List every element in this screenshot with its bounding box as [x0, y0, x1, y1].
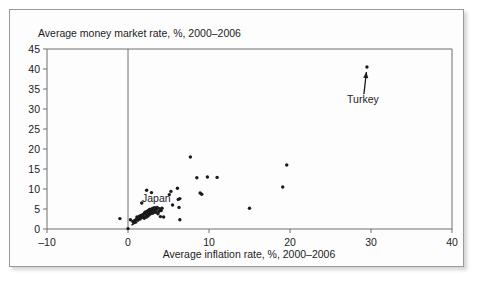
figure-frame: Average money market rate, %, 2000–2006 … [9, 9, 464, 267]
data-point [281, 185, 284, 188]
x-tick-label: 20 [284, 236, 296, 248]
data-point [365, 65, 368, 68]
x-tick-label: 10 [203, 236, 215, 248]
x-tick-label: 0 [125, 236, 131, 248]
data-point [171, 203, 174, 206]
annotation-label: Turkey [347, 93, 379, 105]
data-point [178, 197, 181, 200]
y-tick-label: 30 [28, 103, 40, 115]
x-tick-label: 40 [446, 236, 458, 248]
y-axis-ticks: 051015202530354045 [28, 43, 47, 235]
annotations-layer: TurkeyJapan [132, 72, 380, 225]
y-tick-label: 40 [28, 63, 40, 75]
y-tick-label: 25 [28, 123, 40, 135]
data-point [248, 207, 251, 210]
data-points-layer [118, 65, 368, 230]
y-tick-label: 20 [28, 143, 40, 155]
data-point [195, 176, 198, 179]
y-tick-label: 10 [28, 183, 40, 195]
y-tick-label: 45 [28, 43, 40, 55]
y-tick-label: 0 [34, 223, 40, 235]
data-point [215, 176, 218, 179]
data-point [176, 187, 179, 190]
data-point [285, 163, 288, 166]
data-point [189, 155, 192, 158]
data-point [159, 215, 162, 218]
x-tick-label: 30 [365, 236, 377, 248]
data-point [178, 218, 181, 221]
data-point [160, 207, 163, 210]
x-axis-ticks: –10010203040 [38, 229, 458, 248]
annotation-label: Japan [142, 192, 171, 204]
y-tick-label: 5 [34, 203, 40, 215]
y-axis-title: Average money market rate, %, 2000–2006 [38, 27, 241, 39]
data-point [200, 193, 203, 196]
scatter-plot: Average money market rate, %, 2000–2006 … [10, 10, 465, 268]
y-tick-label: 35 [28, 83, 40, 95]
x-tick-label: –10 [38, 236, 56, 248]
data-point [206, 175, 209, 178]
data-point [162, 215, 165, 218]
data-point [126, 227, 129, 230]
y-tick-label: 15 [28, 163, 40, 175]
data-point [118, 217, 121, 220]
data-point [177, 206, 180, 209]
x-axis-title: Average inflation rate, %, 2000–2006 [163, 248, 336, 260]
